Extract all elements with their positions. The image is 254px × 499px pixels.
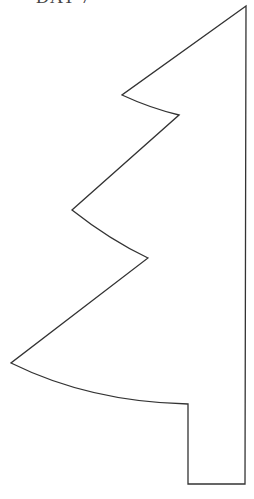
christmas-tree-outline bbox=[0, 0, 254, 499]
tree-shape bbox=[11, 6, 246, 484]
